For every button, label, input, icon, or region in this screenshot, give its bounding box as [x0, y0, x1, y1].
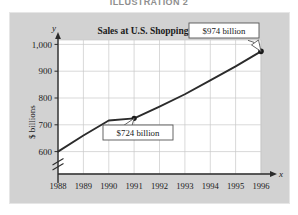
y-axis-arrow: [55, 32, 61, 39]
callout-724-label: $724 billion: [117, 128, 160, 138]
figure-panel: Sales at U.S. Shopping Centers $ billion…: [9, 12, 290, 204]
x-tick-label-1993: 1993: [176, 181, 193, 191]
illustration-caption: ILLUSTRATION 2: [0, 0, 298, 7]
y-tick-label-1000: 1,000: [32, 40, 53, 50]
x-tick-label-1996: 1996: [252, 181, 270, 191]
y-tick-label-800: 800: [39, 93, 53, 103]
x-tick-label-1995: 1995: [227, 181, 244, 191]
y-tick-label-900: 900: [39, 66, 53, 76]
x-tick-label-1988: 1988: [49, 181, 66, 191]
y-axis-symbol: y: [51, 23, 56, 33]
callout-974-label: $974 billion: [203, 26, 246, 36]
y-tick-label-600: 600: [39, 147, 53, 157]
x-tick-label-1994: 1994: [202, 181, 220, 191]
x-tick-label-1989: 1989: [75, 181, 92, 191]
x-tick-label-1990: 1990: [100, 181, 117, 191]
x-tick-label-1991: 1991: [126, 181, 143, 191]
x-tick-label-1992: 1992: [151, 181, 168, 191]
y-tick-label-700: 700: [39, 120, 53, 130]
chart-plot: 600 700 800 900 1,000 1988 1989 1990 199…: [10, 13, 289, 203]
figure-root: ILLUSTRATION 2 Sales at U.S. Shopping Ce…: [0, 0, 298, 215]
x-axis-symbol: x: [278, 169, 283, 179]
x-axis-arrow: [270, 171, 277, 177]
